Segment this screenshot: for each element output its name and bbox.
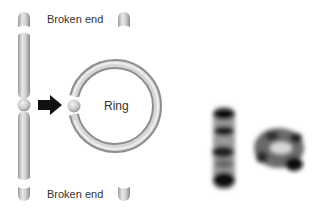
top-right-broken-end (118, 12, 130, 27)
micrograph-ring-chromosome (254, 128, 304, 171)
bottom-right-broken-end (118, 187, 130, 201)
ring-label: Ring (104, 100, 129, 112)
diagram-graphic (0, 0, 326, 214)
centromere-icon (18, 99, 31, 112)
top-broken-end-label: Broken end (47, 14, 103, 25)
transformation-arrow-icon (38, 95, 62, 115)
ring-centromere-icon (68, 100, 81, 113)
top-left-broken-end (18, 12, 30, 27)
linear-chromosome (18, 33, 31, 181)
micrograph-linear-chromosome (212, 107, 235, 189)
ring-chromosome-diagram: Broken end Ring Broken end (0, 0, 326, 214)
bottom-broken-end-label: Broken end (47, 189, 103, 200)
bottom-left-broken-end (18, 187, 30, 201)
